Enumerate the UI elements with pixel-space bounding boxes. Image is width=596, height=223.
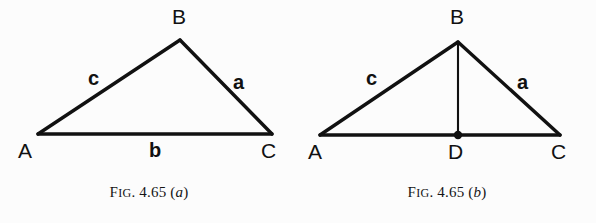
side-label-c: c — [88, 68, 99, 88]
vertex-label-a: A — [18, 140, 32, 161]
caption-fig-prefix: F — [408, 184, 417, 200]
side-label-a: a — [233, 72, 244, 92]
figure-4-65-a: A B C c a b FIG. 4.65 (a) — [0, 0, 298, 223]
vertex-label-b: B — [450, 6, 464, 27]
caption-number: . 4.65 ( — [131, 184, 175, 200]
segment-bc-side-a — [458, 42, 560, 135]
figure-caption-a: FIG. 4.65 (a) — [0, 184, 298, 201]
caption-fig-prefix: F — [110, 184, 119, 200]
vertex-label-b: B — [172, 6, 186, 27]
segment-bc-side-a — [180, 40, 272, 134]
vertex-label-c: C — [261, 140, 276, 161]
vertex-label-a: A — [308, 141, 322, 162]
caption-fig-smallcaps: IG — [118, 186, 131, 200]
caption-suffix: ) — [481, 184, 486, 200]
figure-caption-b: FIG. 4.65 (b) — [298, 184, 596, 201]
segment-ab-side-c — [320, 42, 458, 135]
side-label-c: c — [366, 68, 377, 88]
caption-suffix: ) — [183, 184, 188, 200]
figure-4-65-b: A B C D c a FIG. 4.65 (b) — [298, 0, 596, 223]
segment-ab-side-c — [38, 40, 180, 134]
side-label-b: b — [149, 140, 161, 160]
side-label-a: a — [517, 72, 528, 92]
caption-fig-smallcaps: IG — [416, 186, 429, 200]
vertex-label-c: C — [551, 141, 566, 162]
figure-page: A B C c a b FIG. 4.65 (a) A B C D c a FI… — [0, 0, 596, 223]
point-marker-d — [454, 131, 462, 139]
vertex-label-d: D — [448, 141, 463, 162]
caption-number: . 4.65 ( — [429, 184, 473, 200]
